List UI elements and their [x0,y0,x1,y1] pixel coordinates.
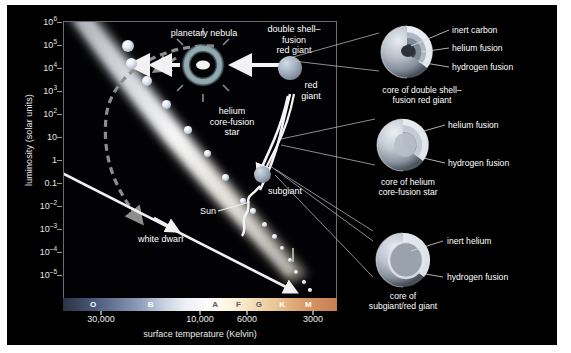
core-diagram-double-shell-fusion-red-giant [381,26,449,78]
callout-helium-fusion-core1: helium fusion [452,43,503,53]
callout-lines [7,5,557,345]
caption-core-double-shell-fusion-red-giant: core of double shell– fusion red giant [347,85,497,105]
callout-inert-carbon: inert carbon [452,25,497,35]
callout-inert-helium: inert helium [447,236,491,246]
caption-line2: fusion red giant [393,95,452,105]
callout-hydrogen-fusion-core2: hydrogen fusion [448,158,509,168]
callout-hydrogen-fusion-core3: hydrogen fusion [447,272,508,282]
callout-helium-fusion-core2: helium fusion [448,120,499,130]
caption-line2: core-fusion star [378,187,437,197]
caption-line1: core of helium [381,177,435,187]
hr-diagram-figure: luminosity (solar units) 106 105 104 103… [7,5,557,345]
core-diagram-helium-core-fusion-star [377,119,445,171]
caption-core-subgiant-red-giant: core of subgiant/red giant [333,291,473,311]
caption-line1: core of double shell– [382,85,461,95]
caption-line1: core of [390,291,416,301]
callout-hydrogen-fusion-core1: hydrogen fusion [452,62,513,72]
caption-core-helium-core-fusion-star: core of helium core-fusion star [343,177,473,197]
caption-line2: subgiant/red giant [369,301,437,311]
core-diagram-subgiant-red-giant [376,233,443,287]
